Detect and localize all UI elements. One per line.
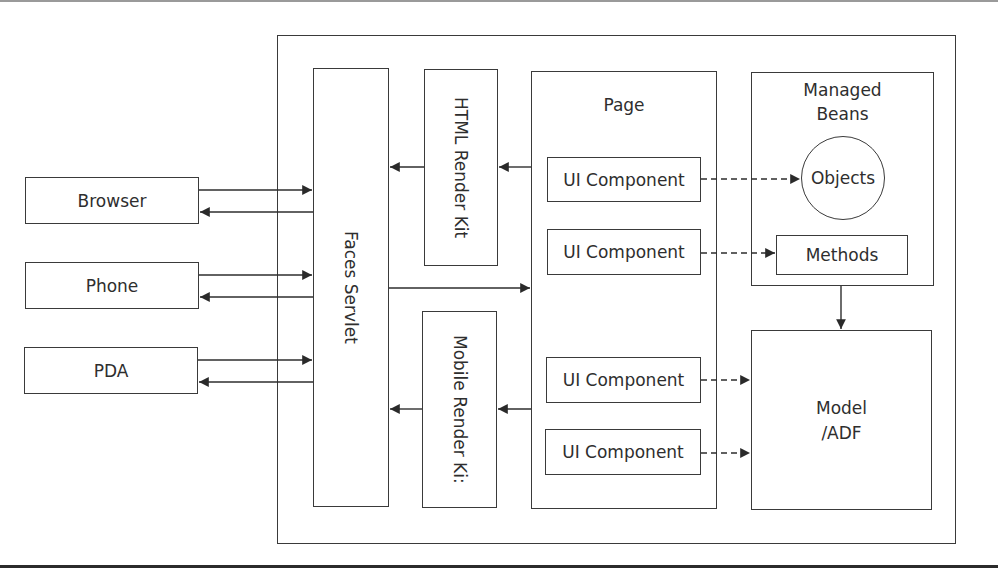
managed-beans-label-line1: Managed	[752, 80, 933, 100]
ui-component-2: UI Component	[547, 229, 701, 275]
client-phone: Phone	[25, 262, 199, 309]
ui-component-label: UI Component	[563, 170, 685, 190]
ui-component-label: UI Component	[562, 442, 684, 462]
client-pda: PDA	[24, 347, 198, 394]
managed-beans-label-line2: Beans	[752, 104, 933, 124]
ui-component-3: UI Component	[546, 357, 701, 403]
model-adf: Model /ADF	[751, 330, 932, 510]
objects-circle: Objects	[801, 136, 885, 220]
ui-component-4: UI Component	[545, 429, 701, 475]
faces-servlet: Faces Servlet	[313, 68, 389, 507]
model-label-line1: Model	[752, 398, 931, 418]
ui-component-1: UI Component	[547, 157, 701, 202]
page-label: Page	[532, 95, 716, 115]
client-browser: Browser	[25, 177, 199, 224]
mobile-render-kit-label: Mobile Render Ki:	[450, 335, 470, 484]
ui-component-label: UI Component	[563, 242, 685, 262]
model-label-line2: /ADF	[752, 423, 931, 443]
top-rule	[0, 0, 998, 2]
methods-box: Methods	[776, 235, 908, 275]
bottom-rule	[0, 565, 998, 568]
faces-servlet-label: Faces Servlet	[341, 231, 361, 344]
client-browser-label: Browser	[78, 191, 147, 211]
client-pda-label: PDA	[94, 361, 129, 381]
methods-label: Methods	[806, 245, 879, 265]
mobile-render-kit: Mobile Render Ki:	[422, 311, 497, 508]
html-render-kit: HTML Render Kit	[424, 69, 498, 266]
html-render-kit-label: HTML Render Kit	[451, 97, 471, 238]
client-phone-label: Phone	[86, 276, 139, 296]
ui-component-label: UI Component	[563, 370, 685, 390]
objects-label: Objects	[811, 168, 875, 188]
